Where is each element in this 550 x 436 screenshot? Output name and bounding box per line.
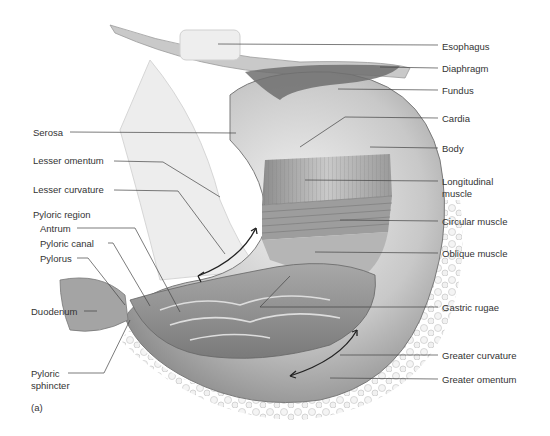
- label-greater-omentum: Greater omentum: [442, 374, 516, 385]
- label-pyloric-sphincter: Pyloric: [31, 368, 60, 379]
- label-pyloric-region: Pyloric region: [33, 209, 91, 220]
- label-esophagus: Esophagus: [442, 41, 490, 52]
- label-fundus: Fundus: [442, 85, 474, 96]
- label-pylorus: Pylorus: [40, 253, 72, 264]
- label-oblique-muscle: Oblique muscle: [442, 248, 507, 259]
- label-duodenum: Duodenum: [31, 306, 77, 317]
- label-gastric-rugae: Gastric rugae: [442, 302, 499, 313]
- label-serosa: Serosa: [33, 127, 63, 138]
- label-pyloric-canal: Pyloric canal: [40, 238, 94, 249]
- stomach-anatomy-figure: Esophagus Diaphragm Fundus Cardia Body L…: [0, 0, 550, 436]
- panel-label: (a): [31, 402, 43, 413]
- label-pyloric-sphincter-line2: sphincter: [31, 380, 70, 391]
- label-cardia: Cardia: [442, 113, 470, 124]
- label-longitudinal-muscle: Longitudinal: [442, 176, 493, 187]
- label-lesser-curvature: Lesser curvature: [33, 184, 104, 195]
- esophagus-shape: [180, 30, 240, 60]
- label-lesser-omentum: Lesser omentum: [33, 155, 104, 166]
- label-body: Body: [442, 143, 464, 154]
- label-longitudinal-muscle-line2: muscle: [442, 188, 472, 199]
- label-circular-muscle: Circular muscle: [442, 216, 507, 227]
- label-antrum: Antrum: [40, 223, 71, 234]
- duodenum-shape: [60, 278, 128, 331]
- label-greater-curvature: Greater curvature: [442, 350, 516, 361]
- label-diaphragm: Diaphragm: [442, 63, 488, 74]
